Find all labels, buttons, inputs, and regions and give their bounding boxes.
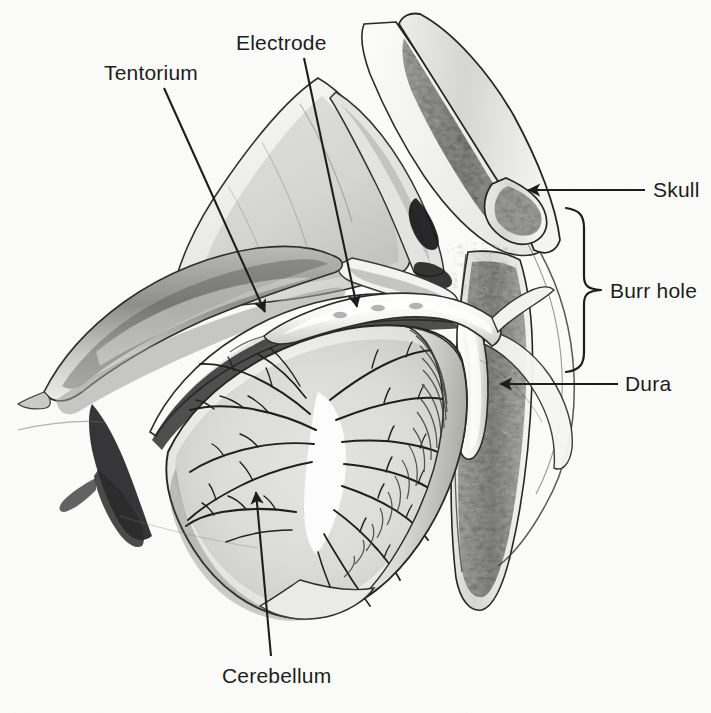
label-electrode: Electrode	[236, 32, 327, 53]
label-cerebellum: Cerebellum	[222, 665, 331, 686]
label-tentorium: Tentorium	[104, 62, 198, 83]
label-dura: Dura	[625, 373, 671, 394]
label-burr-hole: Burr hole	[610, 280, 697, 301]
skull-marrow-band	[445, 242, 518, 302]
illustration-page: Tentorium Electrode Skull Burr hole Dura…	[0, 0, 711, 713]
label-skull: Skull	[653, 179, 700, 200]
anatomical-figure	[0, 0, 711, 713]
